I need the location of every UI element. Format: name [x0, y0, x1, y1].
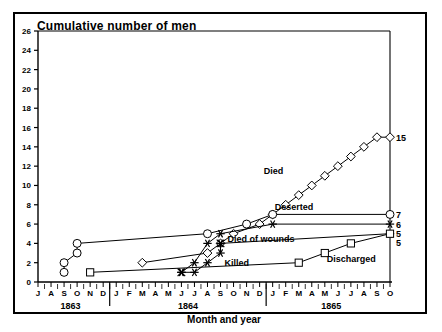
x-tick-label: A — [48, 289, 54, 298]
x-tick-label: D — [257, 289, 263, 298]
chart-plot: 02468101214161820222426JASONDJFMAMJJASON… — [0, 0, 442, 332]
data-point-died — [386, 133, 395, 142]
x-tick-label: N — [87, 289, 93, 298]
y-tick-label: 10 — [22, 181, 31, 190]
series-line-died-of-wounds — [181, 224, 390, 272]
year-label: 1863 — [61, 301, 81, 311]
data-point-discharged — [386, 230, 393, 237]
x-tick-label: A — [309, 289, 315, 298]
x-tick-label: N — [244, 289, 250, 298]
data-point-deserted — [73, 249, 81, 257]
x-tick-label: A — [152, 289, 158, 298]
x-tick-label: M — [139, 289, 146, 298]
data-point-died — [138, 258, 147, 267]
figure-container: Cumulative number of men 024681012141618… — [0, 0, 442, 332]
data-point-died — [346, 152, 355, 161]
data-point-died — [320, 171, 329, 180]
data-point-died — [373, 133, 382, 142]
data-point-died — [294, 191, 303, 200]
x-tick-label: D — [100, 289, 106, 298]
series-label-discharged: Discharged — [327, 254, 376, 264]
y-tick-label: 20 — [22, 85, 31, 94]
data-point-deserted — [203, 230, 211, 238]
data-point-died — [360, 142, 369, 151]
data-point-died — [203, 249, 212, 258]
x-tick-label: J — [349, 289, 353, 298]
data-point-died — [333, 162, 342, 171]
y-tick-label: 24 — [22, 46, 31, 55]
x-tick-label: J — [36, 289, 40, 298]
y-tick-label: 8 — [27, 201, 32, 210]
y-tick-label: 18 — [22, 104, 31, 113]
data-point-discharged — [295, 259, 302, 266]
x-tick-label: J — [336, 289, 340, 298]
x-tick-label: M — [321, 289, 328, 298]
y-tick-label: 16 — [22, 124, 31, 133]
end-value-label: 7 — [396, 210, 401, 220]
x-tick-label: J — [179, 289, 183, 298]
end-value-label: 6 — [396, 220, 401, 230]
data-point-died — [307, 181, 316, 190]
series-label-killed: Killed — [225, 258, 250, 268]
data-point-deserted — [73, 239, 81, 247]
year-label: 1864 — [178, 301, 198, 311]
x-tick-label: M — [295, 289, 302, 298]
end-value-label: 5 — [396, 238, 401, 248]
data-point-discharged — [87, 269, 94, 276]
x-tick-label: S — [374, 289, 380, 298]
x-tick-label: O — [387, 289, 393, 298]
x-tick-label: O — [230, 289, 236, 298]
y-tick-label: 14 — [22, 143, 31, 152]
y-tick-label: 26 — [22, 27, 31, 36]
x-tick-label: J — [192, 289, 196, 298]
y-tick-label: 2 — [27, 259, 32, 268]
x-tick-label: F — [127, 289, 132, 298]
y-tick-label: 0 — [27, 278, 32, 287]
year-label: 1865 — [321, 301, 341, 311]
data-point-deserted — [60, 259, 68, 267]
series-label-died-of-wounds: Died of wounds — [228, 234, 295, 244]
y-tick-label: 22 — [22, 66, 31, 75]
data-point-discharged — [347, 240, 354, 247]
data-point-deserted — [386, 210, 394, 218]
x-tick-label: S — [218, 289, 224, 298]
x-tick-label: A — [205, 289, 211, 298]
x-tick-label: F — [283, 289, 288, 298]
x-tick-label: S — [61, 289, 67, 298]
x-tick-label: M — [165, 289, 172, 298]
x-tick-label: O — [74, 289, 80, 298]
y-tick-label: 12 — [22, 162, 31, 171]
y-tick-label: 4 — [27, 239, 32, 248]
data-point-deserted — [243, 220, 251, 228]
series-label-died: Died — [264, 166, 284, 176]
y-tick-label: 6 — [27, 220, 32, 229]
x-tick-label: J — [270, 289, 274, 298]
end-value-label: 15 — [396, 133, 406, 143]
x-axis-label: Month and year — [187, 314, 261, 325]
data-point-deserted — [60, 268, 68, 276]
x-tick-label: A — [361, 289, 367, 298]
x-tick-label: J — [114, 289, 118, 298]
series-label-deserted: Deserted — [275, 202, 314, 212]
